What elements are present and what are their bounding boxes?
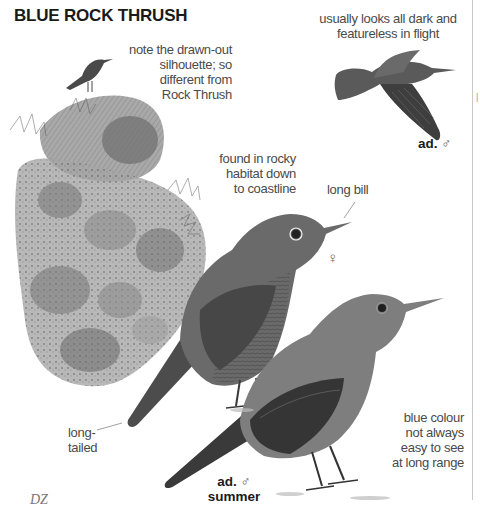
male-bird-illustration <box>0 0 480 519</box>
